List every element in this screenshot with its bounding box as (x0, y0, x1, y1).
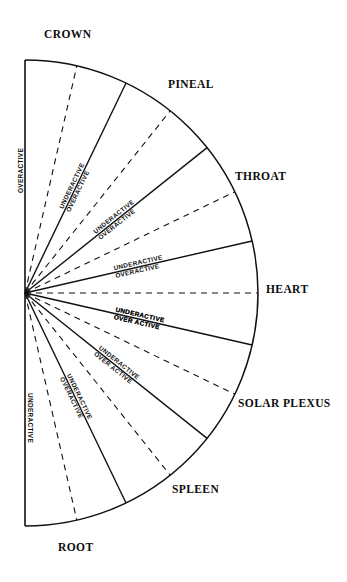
bisector-spoke-crown (25, 66, 77, 293)
chakra-label-heart: HEART (266, 283, 309, 295)
activity-label-pair-5: UNDERACTIVEOVERACTIVE (59, 372, 94, 424)
chakra-label-spleen: SPLEEN (172, 483, 219, 495)
activity-label-pair-2: UNDERACTIVEOVERACTIVE (113, 253, 165, 279)
chakra-label-root: ROOT (58, 541, 93, 553)
activity-label-pair-99: UNDERACTIVEOVER ACTIVE (113, 306, 165, 332)
chakra-label-pineal: PINEAL (168, 78, 214, 90)
edge-label-underactive: UNDERACTIVE (27, 393, 34, 443)
chakra-label-crown: CROWN (44, 28, 91, 40)
activity-label-pair-0: UNDERACTIVEOVERACTIVE (58, 161, 93, 213)
chakra-dowsing-chart: UNDERACTIVEOVERACTIVEUNDERACTIVEOVERACTI… (0, 0, 347, 582)
sector-bisector-spokes (25, 66, 258, 520)
edge-label-overactive: OVERACTIVE (17, 148, 24, 193)
activity-label-pair-1: UNDERACTIVEOVERACTIVE (92, 198, 141, 241)
chakra-label-throat: THROAT (235, 170, 286, 182)
chakra-label-solar-plexus: SOLAR PLEXUS (238, 397, 331, 409)
